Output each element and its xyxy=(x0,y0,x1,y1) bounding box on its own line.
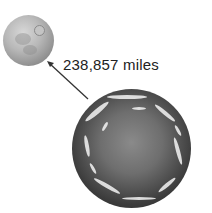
distance-arrow xyxy=(0,0,212,213)
distance-label: 238,857 miles xyxy=(63,56,159,73)
